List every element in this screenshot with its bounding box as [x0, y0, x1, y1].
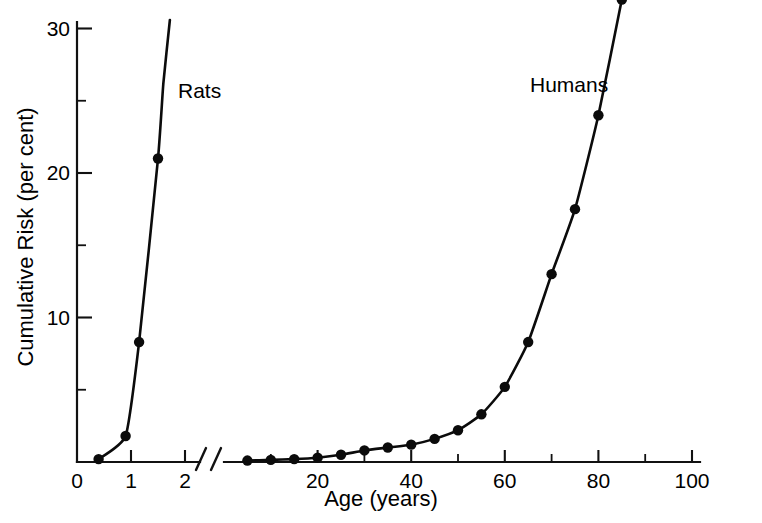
series-group — [93, 0, 627, 466]
data-point-humans-5 — [242, 455, 252, 465]
data-point-humans-75 — [570, 204, 580, 214]
x-axis-label: Age (years) — [0, 486, 762, 512]
data-point-rats-1.15 — [134, 337, 144, 347]
data-point-rats-0.9 — [120, 431, 130, 441]
data-point-humans-10 — [266, 455, 276, 465]
y-axis-label: Cumulative Risk (per cent) — [13, 107, 38, 366]
axis-break-mark-2 — [211, 448, 221, 470]
data-point-humans-55 — [476, 409, 486, 419]
axis-break-mark-1 — [196, 448, 206, 470]
data-point-rats-0.4 — [93, 454, 103, 464]
data-point-humans-50 — [453, 425, 463, 435]
data-point-humans-30 — [359, 445, 369, 455]
chart-figure: 10203001220406080100 Rats Humans Age (ye… — [0, 0, 762, 523]
data-point-humans-85 — [617, 0, 627, 5]
series-label-humans: Humans — [530, 74, 608, 95]
y-axis-label-wrapper: Cumulative Risk (per cent) — [13, 27, 43, 447]
data-point-humans-25 — [336, 450, 346, 460]
data-point-humans-65 — [523, 337, 533, 347]
series-humans — [242, 0, 627, 466]
data-point-humans-80 — [593, 110, 603, 120]
data-point-humans-40 — [406, 439, 416, 449]
data-point-humans-60 — [500, 382, 510, 392]
data-point-humans-20 — [312, 452, 322, 462]
data-point-humans-70 — [546, 269, 556, 279]
data-point-humans-35 — [383, 442, 393, 452]
data-point-rats-1.5 — [153, 153, 163, 163]
curve-humans — [247, 0, 621, 461]
data-point-humans-15 — [289, 454, 299, 464]
curve-rats — [99, 20, 170, 459]
data-point-humans-45 — [429, 434, 439, 444]
chart-plot-area — [0, 0, 762, 523]
series-label-rats: Rats — [178, 80, 221, 101]
series-rats — [93, 20, 169, 464]
